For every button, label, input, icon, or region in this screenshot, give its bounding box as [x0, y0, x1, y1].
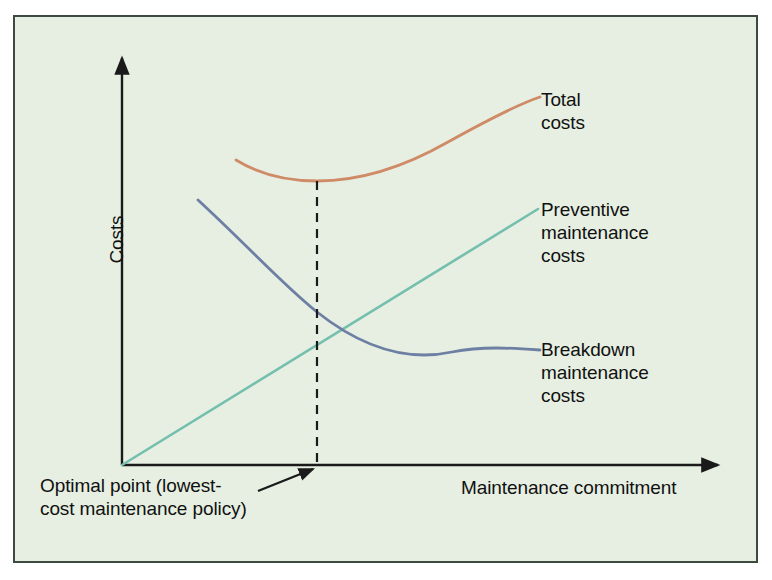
optimal-point-annotation-text: Optimal point (lowest- cost maintenance … — [40, 474, 247, 520]
x-axis-label: Maintenance commitment — [461, 476, 676, 499]
series-label-preventive-maintenance-costs: Preventive maintenance costs — [541, 198, 649, 267]
series-label-breakdown-maintenance-costs: Breakdown maintenance costs — [541, 338, 649, 407]
y-axis-label: Costs — [105, 180, 128, 300]
series-label-total-costs: Total costs — [541, 88, 585, 134]
chart-page: Costs Maintenance commitment Total costs… — [0, 0, 772, 580]
